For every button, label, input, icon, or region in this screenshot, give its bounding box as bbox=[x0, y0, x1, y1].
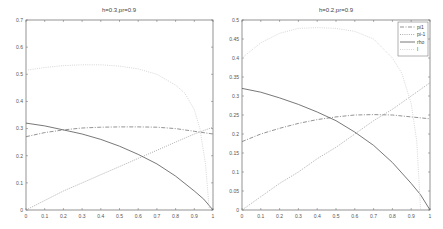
series-rho bbox=[242, 88, 430, 210]
legend-label: rho bbox=[417, 39, 424, 45]
y-tick-label: 0.4 bbox=[232, 55, 239, 61]
y-tick-label: 0.7 bbox=[16, 17, 23, 23]
y-tick-label: 0.5 bbox=[232, 17, 239, 23]
legend-label: pi1 bbox=[417, 24, 424, 30]
series-pi1 bbox=[26, 127, 213, 137]
figure-canvas: h=0.3,pr=0.9 00.10.20.30.40.50.60.70.80.… bbox=[0, 0, 443, 229]
x-tick-label: 0.3 bbox=[295, 213, 302, 219]
x-tick-label: 0.9 bbox=[191, 213, 198, 219]
series-pi1 bbox=[242, 115, 430, 142]
legend: pi1pi-1rhol bbox=[398, 22, 428, 56]
y-tick-label: 0.1 bbox=[16, 180, 23, 186]
y-tick-label: 0.25 bbox=[229, 112, 239, 118]
x-tick-label: 0.5 bbox=[116, 213, 123, 219]
y-tick-label: 0.5 bbox=[16, 71, 23, 77]
y-tick-label: 0.4 bbox=[16, 98, 23, 104]
x-tick-label: 0.1 bbox=[41, 213, 48, 219]
chart-left: h=0.3,pr=0.9 00.10.20.30.40.50.60.70.80.… bbox=[16, 7, 215, 219]
x-tick-label: 0.3 bbox=[79, 213, 86, 219]
plot-area bbox=[26, 20, 213, 210]
chart-title: h=0.2,pr=0.9 bbox=[319, 7, 354, 13]
x-tick-label: 0.1 bbox=[257, 213, 264, 219]
y-tick-label: 0 bbox=[20, 207, 23, 213]
x-tick-label: 0.7 bbox=[153, 213, 160, 219]
y-tick-label: 0.05 bbox=[229, 188, 239, 194]
y-tick-label: 0.15 bbox=[229, 150, 239, 156]
y-tick-label: 0.35 bbox=[229, 74, 239, 80]
x-tick-label: 0.4 bbox=[97, 213, 104, 219]
y-tick-label: 0.6 bbox=[16, 44, 23, 50]
x-tick-label: 0.2 bbox=[276, 213, 283, 219]
chart-title: h=0.3,pr=0.9 bbox=[102, 7, 137, 13]
y-tick-label: 0.3 bbox=[232, 93, 239, 99]
series-pi-1 bbox=[242, 83, 430, 210]
x-tick-label: 0.9 bbox=[408, 213, 415, 219]
y-tick-label: 0.2 bbox=[16, 153, 23, 159]
y-tick-label: 0.1 bbox=[232, 169, 239, 175]
x-tick-label: 0 bbox=[25, 213, 28, 219]
y-tick-label: 0.2 bbox=[232, 131, 239, 137]
x-tick-label: 0.7 bbox=[370, 213, 377, 219]
y-tick-label: 0.3 bbox=[16, 125, 23, 131]
x-tick-label: 1 bbox=[212, 213, 215, 219]
x-tick-label: 0.2 bbox=[60, 213, 67, 219]
y-tick-label: 0.45 bbox=[229, 36, 239, 42]
x-tick-label: 0.6 bbox=[351, 213, 358, 219]
x-tick-label: 0.8 bbox=[389, 213, 396, 219]
figure: h=0.3,pr=0.9 00.10.20.30.40.50.60.70.80.… bbox=[0, 0, 443, 229]
legend-label: l bbox=[417, 46, 418, 52]
x-tick-label: 0.6 bbox=[135, 213, 142, 219]
series-rho bbox=[26, 123, 213, 210]
y-tick-label: 0 bbox=[236, 207, 239, 213]
chart-right: h=0.2,pr=0.9 00.10.20.30.40.50.60.70.80.… bbox=[229, 7, 431, 219]
legend-label: pi-1 bbox=[417, 31, 426, 37]
x-tick-label: 0 bbox=[241, 213, 244, 219]
x-tick-label: 0.5 bbox=[333, 213, 340, 219]
series-pi-1 bbox=[26, 127, 213, 210]
series-l bbox=[26, 65, 209, 210]
x-tick-label: 0.4 bbox=[314, 213, 321, 219]
x-tick-label: 0.8 bbox=[172, 213, 179, 219]
x-tick-label: 1 bbox=[429, 213, 432, 219]
